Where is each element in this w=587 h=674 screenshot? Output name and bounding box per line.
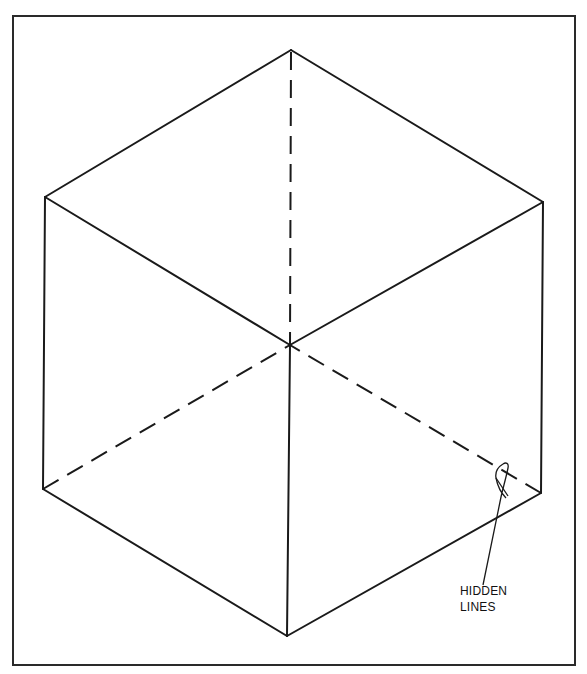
hidden-edges (43, 52, 541, 493)
edge-lower-left-bottom (43, 489, 287, 636)
edge-center-bottom (287, 345, 290, 636)
edge-top-upper-left (45, 50, 291, 197)
hidden-edge-top-center (290, 52, 291, 345)
edge-upper-left-lower-left (43, 197, 45, 489)
hidden-lines-label-line1: HIDDEN (460, 584, 507, 598)
edge-upper-right-center (290, 202, 543, 345)
edge-top-upper-right (291, 50, 543, 202)
isometric-cube-diagram: HIDDEN LINES (0, 0, 587, 674)
hidden-edge-lower-right-center (290, 345, 541, 493)
edge-upper-right-lower-right (541, 202, 543, 493)
visible-edges (43, 50, 543, 636)
figure-frame (13, 16, 575, 665)
edge-lower-right-bottom (287, 493, 541, 636)
hidden-lines-label-line2: LINES (460, 600, 496, 614)
hidden-edge-lower-left-center (43, 345, 290, 489)
edge-upper-left-center (45, 197, 290, 345)
